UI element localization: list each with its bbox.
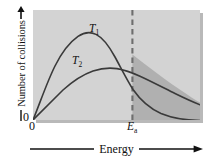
y-axis-label-text: Number of collisions xyxy=(16,20,27,107)
arrow-up-icon xyxy=(15,5,27,19)
plot-canvas xyxy=(33,10,200,120)
shaded-region-above-activation-energy xyxy=(132,55,200,121)
activation-energy-label: Ea xyxy=(127,120,137,135)
arrow-right-icon xyxy=(139,143,203,155)
y-axis-label: Number of collisions xyxy=(13,0,29,128)
curve-label-t1: T1 xyxy=(89,22,99,37)
curve-label-t2-subscript: 2 xyxy=(78,60,82,69)
x-axis-origin-label: 0 xyxy=(29,119,35,134)
activation-energy-subscript: a xyxy=(134,126,137,135)
arrow-left-dash-icon xyxy=(15,108,27,121)
x-axis-label: Energy xyxy=(30,141,203,157)
curve-label-t1-subscript: 1 xyxy=(95,28,99,37)
activation-energy-figure: 0 0 Number of collisions Ea T1 T2 Energy xyxy=(0,0,206,159)
activation-energy-symbol: E xyxy=(127,120,134,132)
arrow-line-left-icon xyxy=(30,143,94,155)
curve-label-t2: T2 xyxy=(72,54,82,69)
x-axis-label-text: Energy xyxy=(94,142,138,157)
